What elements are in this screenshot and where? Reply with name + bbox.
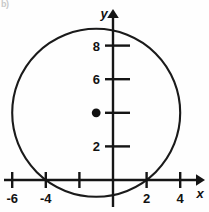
figure-root: b) -6 -4 2 4 8 6 2: [0, 0, 209, 212]
x-tick-label-minus4: -4: [40, 191, 52, 206]
coordinate-plane-plot: -6 -4 2 4 8 6 2 y x: [0, 0, 209, 212]
x-tick-label-2: 2: [143, 191, 150, 206]
y-tick-label-2: 2: [93, 139, 100, 154]
x-axis-label: x: [195, 186, 204, 201]
y-axis-label: y: [99, 6, 108, 21]
y-axis-arrowhead: [107, 9, 119, 18]
y-tick-label-6: 6: [93, 72, 100, 87]
x-tick-label-minus6: -6: [6, 191, 18, 206]
x-tick-label-4: 4: [177, 191, 185, 206]
center-point-marker: [92, 108, 101, 117]
x-axis-arrowhead: [196, 174, 205, 186]
y-tick-label-8: 8: [93, 39, 100, 54]
